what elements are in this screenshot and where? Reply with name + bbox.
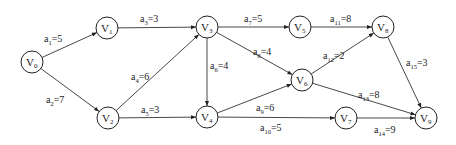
node-v9: V9	[415, 107, 437, 129]
edge-v2-v4	[119, 117, 196, 118]
edges-layer	[41, 27, 421, 118]
nodes-layer: V0V1V2V3V4V5V6V7V8V9	[21, 16, 437, 129]
edge-v1-v3	[118, 27, 196, 28]
edge-label-a1: a1=5	[44, 33, 62, 46]
node-v3: V3	[196, 16, 218, 38]
edge-v4-v7	[218, 117, 335, 118]
aoe-network-diagram: a1=5a2=7a3=3a4=6a5=3a6=4a7=5a8=4a9=6a10=…	[0, 0, 456, 145]
edge-label-a11: a11=8	[330, 13, 351, 26]
node-v4: V4	[196, 106, 218, 128]
node-v7: V7	[335, 107, 357, 129]
edge-label-a5: a5=3	[141, 104, 159, 117]
node-v5: V5	[289, 16, 311, 38]
edge-label-a13: a13=8	[358, 89, 380, 102]
edge-label-a3: a3=3	[140, 13, 158, 26]
edge-label-a12: a12=2	[323, 50, 345, 63]
edge-v4-v6	[217, 84, 291, 113]
edge-label-a15: a15=3	[406, 57, 428, 70]
edge-label-a8: a8=4	[253, 46, 271, 59]
node-v8: V8	[372, 16, 394, 38]
edge-label-a7: a7=5	[244, 13, 262, 26]
node-v6: V6	[291, 69, 313, 91]
node-v0: V0	[21, 51, 43, 73]
node-v2: V2	[97, 107, 119, 129]
edge-v8-v9	[388, 37, 422, 108]
edge-label-a9: a9=6	[256, 102, 274, 115]
node-v1: V1	[96, 17, 118, 39]
edge-v2-v3	[116, 34, 199, 110]
edge-label-a4: a4=6	[131, 71, 149, 84]
edge-label-a2: a2=7	[46, 94, 64, 107]
edge-label-a6: a6=4	[210, 60, 228, 73]
edge-label-a10: a10=5	[260, 122, 282, 135]
edge-label-a14: a14=9	[374, 124, 396, 137]
